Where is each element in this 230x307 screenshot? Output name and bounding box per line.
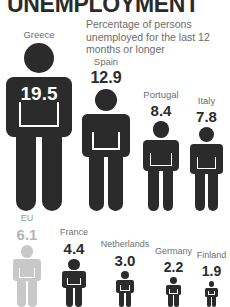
person-pocket-outline <box>120 285 131 290</box>
label-finland: Finland <box>175 251 230 260</box>
person-icon-netherlands <box>116 271 134 307</box>
person-leg-right <box>28 281 37 307</box>
person-leg-right <box>42 137 62 211</box>
person-icon-finland <box>205 281 218 307</box>
person-pocket-outline <box>169 289 178 293</box>
person-pocket-outline <box>19 268 36 277</box>
unemployment-infographic: UNEMPLOYMENT Percentage of persons unemp… <box>0 0 230 307</box>
person-head <box>170 277 177 284</box>
person-leg-left <box>119 293 124 307</box>
person-leg-left <box>66 288 73 307</box>
value-finland: 1.9 <box>185 264 230 278</box>
person-leg-left <box>148 171 159 211</box>
label-eu: EU <box>0 214 71 223</box>
chart-entry-netherlands: 3.0Netherlands <box>116 0 134 307</box>
person-leg-left <box>168 295 173 307</box>
chart-entry-france: 4.4France <box>62 0 86 307</box>
chart-entry-eu: 6.1EU <box>13 0 41 307</box>
person-icon-germany <box>166 277 181 307</box>
person-leg-left <box>207 297 211 307</box>
person-pocket-outline <box>67 278 81 285</box>
person-icon-eu <box>13 245 41 307</box>
label-france: France <box>32 228 116 237</box>
person-leg-left <box>89 157 104 211</box>
person-leg-right <box>212 297 216 307</box>
chart-entry-finland: 1.9Finland <box>205 0 218 307</box>
person-leg-left <box>195 174 205 211</box>
person-pocket-outline <box>208 291 216 295</box>
person-icon-france <box>62 259 86 307</box>
person-leg-left <box>17 281 26 307</box>
person-leg-right <box>126 293 131 307</box>
person-head <box>68 259 79 270</box>
person-head <box>21 245 34 258</box>
chart-entry-germany: 2.2Germany <box>166 0 181 307</box>
person-head <box>209 281 215 287</box>
person-leg-right <box>75 288 82 307</box>
person-leg-right <box>174 295 179 307</box>
person-head <box>121 271 129 279</box>
